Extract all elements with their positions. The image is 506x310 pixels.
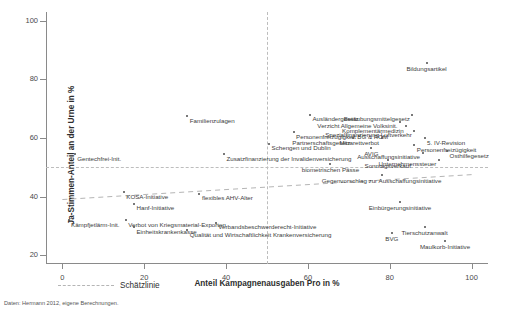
data-point-label: flexibles AHV-Alter — [202, 195, 253, 201]
data-point[interactable] — [399, 201, 401, 203]
x-tick-mark — [226, 264, 227, 269]
data-point[interactable] — [399, 121, 401, 123]
data-point[interactable] — [125, 219, 127, 221]
data-point-label: Verbot von Kriegsmaterial-Exporten — [128, 222, 226, 228]
data-point-label: Gegenvorschlag zur Ausschaffungsinitiati… — [322, 178, 442, 184]
data-point[interactable] — [381, 174, 383, 176]
chart-legend: Schätzlinie — [58, 281, 160, 290]
data-point-label: Zusatzfinanzierung der Invalidenversiche… — [227, 156, 352, 162]
data-point[interactable] — [370, 147, 372, 149]
y-tick-label: 20 — [12, 250, 38, 259]
data-point[interactable] — [446, 150, 448, 152]
data-point-label: Unternehmenssteuer — [379, 161, 437, 167]
y-tick-label: 40 — [12, 192, 38, 201]
data-point[interactable] — [381, 137, 383, 139]
data-point[interactable] — [422, 152, 424, 154]
data-point[interactable] — [198, 193, 200, 195]
y-tick-label: 80 — [12, 74, 38, 83]
y-tick-mark — [40, 21, 46, 22]
data-point[interactable] — [293, 131, 295, 133]
data-point[interactable] — [426, 62, 428, 64]
x-tick-mark — [144, 264, 145, 269]
data-point-label: Tierschutzanwalt — [401, 230, 447, 236]
data-point[interactable] — [413, 144, 415, 146]
y-tick-mark — [40, 138, 46, 139]
data-point[interactable] — [186, 229, 188, 231]
data-point[interactable] — [268, 143, 270, 145]
legend-dash-swatch — [58, 285, 114, 286]
data-point-label: Minarettverbot — [340, 140, 380, 146]
data-point-label: Hanf-Initiative — [136, 205, 174, 211]
y-tick-mark — [40, 79, 46, 80]
y-tick-mark — [40, 197, 46, 198]
data-point[interactable] — [68, 219, 70, 221]
data-point-label: Familienzulagen — [190, 118, 235, 124]
data-point[interactable] — [405, 125, 407, 127]
data-point-label: 5. IV-Revision — [427, 140, 465, 146]
x-tick-mark — [390, 264, 391, 269]
data-point[interactable] — [424, 226, 426, 228]
data-point[interactable] — [413, 130, 415, 132]
data-point[interactable] — [309, 114, 311, 116]
data-point-label: Kämpfjetlärm-Init. — [71, 222, 119, 228]
data-point[interactable] — [411, 114, 413, 116]
data-point[interactable] — [424, 137, 426, 139]
data-point[interactable] — [133, 226, 135, 228]
data-point-label: KOSA-Initiative — [126, 194, 168, 200]
data-point[interactable] — [186, 115, 188, 117]
y-tick-label: 60 — [12, 133, 38, 142]
data-point[interactable] — [215, 222, 217, 224]
data-point-label: biometrischen Pässe — [302, 167, 359, 173]
figure-container: Ja-Stimmen-Anteil an der Urne in % 20406… — [0, 0, 506, 310]
data-point-label: Osthilfegesetz — [450, 153, 489, 159]
data-point[interactable] — [223, 153, 225, 155]
data-point-label: Einbürgerungsinitiative — [369, 205, 432, 211]
data-point[interactable] — [444, 240, 446, 242]
data-point-label: Gentechfrei-Init. — [77, 156, 121, 162]
legend-label-schaetzlinie: Schätzlinie — [120, 281, 160, 290]
x-tick-mark — [308, 264, 309, 269]
data-point-label: Bildungsartikel — [406, 66, 446, 72]
y-tick-label: 100 — [12, 16, 38, 25]
x-tick-mark — [472, 264, 473, 269]
data-point[interactable] — [329, 163, 331, 165]
data-point[interactable] — [74, 153, 76, 155]
data-point-label: Schengen und Dublin — [272, 145, 331, 151]
data-point-label: Verbandsbeschwerderecht-Initiative — [218, 224, 316, 230]
data-point[interactable] — [391, 232, 393, 234]
data-point-label: Maulkorb-Initiative — [420, 244, 470, 250]
data-point[interactable] — [123, 191, 125, 193]
data-point-label: BVG — [385, 236, 398, 242]
data-point-label: Qualität und Wirtschaftlichkeit Krankenv… — [190, 232, 332, 238]
x-tick-mark — [62, 264, 63, 269]
data-point[interactable] — [438, 159, 440, 161]
data-point[interactable] — [133, 203, 135, 205]
source-note: Daten: Hermann 2012, eigene Berechnungen… — [4, 300, 118, 306]
plot-area: 20406080100 020406080100 Bildungsartikel… — [46, 12, 488, 264]
y-tick-mark — [40, 255, 46, 256]
